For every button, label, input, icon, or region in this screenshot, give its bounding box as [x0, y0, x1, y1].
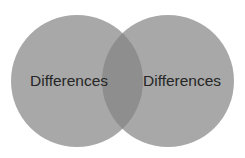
left-circle-label: Differences — [30, 72, 108, 90]
venn-diagram: Differences Differences — [0, 0, 245, 158]
right-circle-label: Differences — [143, 72, 221, 90]
